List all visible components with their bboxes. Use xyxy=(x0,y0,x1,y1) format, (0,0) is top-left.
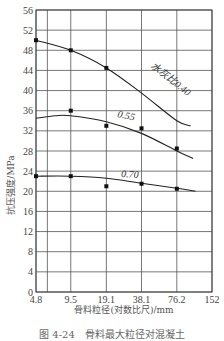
data-point-marker xyxy=(175,187,179,191)
x-tick-label: 38.1 xyxy=(133,294,151,305)
series-curve xyxy=(36,176,196,191)
x-tick-label: 76.2 xyxy=(168,294,186,305)
data-point-marker xyxy=(104,184,108,188)
data-point-marker xyxy=(69,109,73,113)
y-axis-label: 抗压强度/MPa xyxy=(5,155,16,215)
series-label-070: 0.70 xyxy=(121,168,139,180)
y-tick-label: 48 xyxy=(23,45,33,56)
y-tick-label: 40 xyxy=(23,85,33,96)
x-tick-label: 9.5 xyxy=(65,294,78,305)
data-point-marker xyxy=(104,66,108,70)
y-tick-label: 44 xyxy=(23,65,33,76)
y-tick-label: 4 xyxy=(28,266,33,277)
y-tick-label: 32 xyxy=(23,125,33,136)
y-tick-label: 20 xyxy=(23,186,33,197)
series-label-055: 0.55 xyxy=(117,108,136,122)
grid-lines xyxy=(36,10,212,292)
x-axis-label: 骨料粒径(对数比尺)/mm xyxy=(74,304,174,315)
data-point-marker xyxy=(34,38,38,42)
x-tick-label: 4.8 xyxy=(30,294,43,305)
y-tick-label: 16 xyxy=(23,206,33,217)
y-tick-label: 24 xyxy=(23,166,33,177)
data-point-marker xyxy=(140,126,144,130)
x-tick-label: 152 xyxy=(205,294,220,305)
axes: 0481216202428323640444852564.89.519.138.… xyxy=(23,5,220,306)
data-point-marker xyxy=(69,48,73,52)
data-point-marker xyxy=(175,146,179,150)
data-point-marker xyxy=(34,174,38,178)
y-tick-label: 52 xyxy=(23,25,33,36)
x-tick-label: 19.1 xyxy=(98,294,116,305)
data-point-marker xyxy=(69,174,73,178)
y-tick-label: 12 xyxy=(23,226,33,237)
series-label-040: 水灰比0.40 xyxy=(149,60,193,98)
y-tick-label: 28 xyxy=(23,146,33,157)
series-curve xyxy=(36,115,193,158)
data-point-marker xyxy=(104,124,108,128)
y-tick-label: 36 xyxy=(23,105,33,116)
y-tick-label: 56 xyxy=(23,5,33,16)
y-tick-label: 8 xyxy=(28,246,33,257)
figure-caption: 图 4-24 骨料最大粒径对混凝土 xyxy=(0,326,224,341)
series-curves xyxy=(36,40,196,191)
data-point-marker xyxy=(140,182,144,186)
